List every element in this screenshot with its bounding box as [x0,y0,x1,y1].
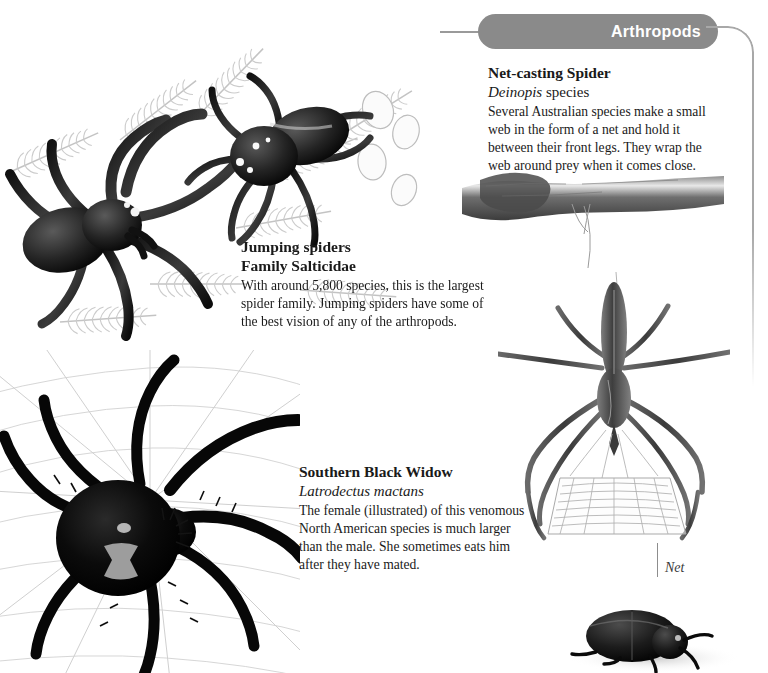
net-casting-subtitle: Deinopis species [488,83,726,102]
section-tab-label: Arthropods [611,23,701,41]
caption-black-widow: Southern Black Widow Latrodectus mactans… [299,463,527,574]
black-widow-subtitle: Latrodectus mactans [299,482,527,501]
net-casting-genus: Deinopis [488,84,542,100]
jumping-title: Jumping spiders [241,238,491,257]
net-callout-leader [657,543,658,577]
net-casting-body: Several Australian species make a small … [488,103,726,175]
net-casting-species: species [542,84,589,100]
beetle-illustration [562,600,762,673]
caption-jumping-spiders: Jumping spiders Family Salticidae With a… [241,238,491,331]
black-widow-title: Southern Black Widow [299,463,527,482]
branch-illustration [462,160,724,270]
jumping-subtitle: Family Salticidae [241,257,491,276]
black-widow-body: The female (illustrated) of this venomou… [299,502,527,574]
section-tab-arthropods[interactable]: Arthropods [478,14,718,49]
net-casting-spider-illustration [498,272,730,572]
net-casting-title: Net-casting Spider [488,64,726,83]
black-widow-illustration [0,350,300,673]
page: Arthropods Net-casting Spider Deinopis s… [0,0,768,673]
jumping-body: With around 5,800 species, this is the l… [241,277,491,331]
net-callout-label: Net [665,560,684,576]
caption-net-casting-spider: Net-casting Spider Deinopis species Seve… [488,64,726,175]
